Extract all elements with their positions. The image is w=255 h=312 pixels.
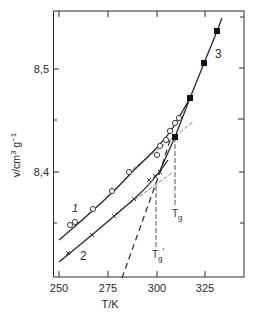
x-tick-label-325: 325 xyxy=(196,282,214,294)
x-axis-title: T/K xyxy=(101,298,119,310)
x-tick-label-250: 250 xyxy=(50,282,68,294)
y-tick-label-8-5: 8,5 xyxy=(34,63,49,75)
curve-1-label: 1 xyxy=(72,202,78,214)
chart: 250 275 300 325 8,5 8,4 T/K v/cm3 g−1 xyxy=(0,0,255,312)
extrapolation-lines xyxy=(115,121,194,214)
curve-3-label: 3 xyxy=(215,47,222,61)
x-tick-label-275: 275 xyxy=(99,282,117,294)
curve-1-line xyxy=(59,98,190,240)
x-tick-label-300: 300 xyxy=(148,282,166,294)
series-1-markers xyxy=(67,115,181,227)
curve-2-label: 2 xyxy=(80,249,87,263)
y-axis-title: v/cm3 g−1 xyxy=(9,132,22,177)
tg-prime-label: Tg′ xyxy=(152,246,165,263)
x-axis-ticks xyxy=(59,11,205,277)
series-2-markers xyxy=(66,170,162,255)
tg-label: Tg xyxy=(172,208,183,222)
y-tick-label-8-4: 8,4 xyxy=(34,166,49,178)
